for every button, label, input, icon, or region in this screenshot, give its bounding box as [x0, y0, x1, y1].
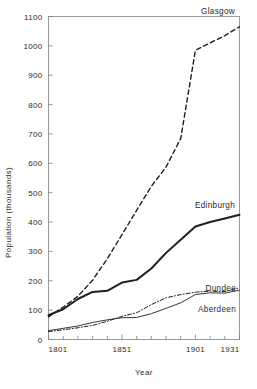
y-tick-label: 100: [28, 306, 42, 315]
series-label-aberdeen: Aberdeen: [198, 305, 236, 314]
y-tick-label: 0: [38, 336, 43, 345]
x-tick-label: 1931: [221, 345, 240, 354]
y-tick-label: 1000: [24, 42, 43, 51]
x-tick-label: 1801: [49, 345, 68, 354]
x-axis-title: Year: [135, 368, 153, 377]
y-tick-label: 1100: [24, 13, 43, 22]
y-tick-label: 600: [28, 159, 42, 168]
y-axis-title: Population (thousands): [4, 167, 13, 258]
population-line-chart: 010020030040050060070080090010001100 180…: [0, 0, 257, 389]
y-tick-label: 800: [28, 101, 42, 110]
y-tick-label: 300: [28, 247, 42, 256]
series-label-glasgow: Glasgow: [201, 7, 235, 16]
x-tick-label: 1901: [186, 345, 205, 354]
x-tick-label: 1851: [112, 345, 131, 354]
y-tick-label: 200: [28, 277, 42, 286]
series-label-edinburgh: Edinburgh: [195, 201, 235, 210]
y-tick-label: 500: [28, 189, 42, 198]
y-tick-label: 700: [28, 130, 42, 139]
y-tick-label: 400: [28, 218, 42, 227]
chart-canvas: 010020030040050060070080090010001100 180…: [0, 0, 257, 389]
series-label-dundee: Dundee: [206, 284, 237, 293]
y-tick-label: 900: [28, 71, 42, 80]
